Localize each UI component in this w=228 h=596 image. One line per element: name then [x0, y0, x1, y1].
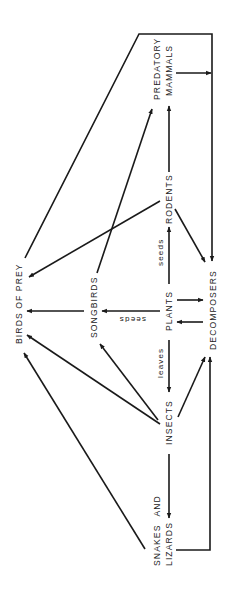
- edge-birds-of-prey-to-decomposers: [25, 34, 212, 261]
- edge-insects-to-birds-of-prey: [27, 335, 160, 424]
- edge-label-leaves: leaves: [156, 348, 165, 378]
- node-predatory-mammals-line2: MAMMALS: [164, 45, 174, 96]
- node-insects: INSECTS: [164, 400, 174, 445]
- food-web-diagram: PREDATORY MAMMALS RODENTS BIRDS OF PREY …: [0, 0, 228, 596]
- edge-insects-to-decomposers: [178, 357, 205, 417]
- node-rodents: RODENTS: [164, 174, 174, 224]
- node-plants: PLANTS: [164, 291, 174, 331]
- edge-songbirds-to-predatory-mammals: [97, 109, 152, 273]
- node-birds-of-prey: BIRDS OF PREY: [14, 263, 24, 344]
- edge-label-seeds-songbirds: seeds: [119, 315, 146, 324]
- edge-insects-to-songbirds: [100, 344, 158, 420]
- edge-label-seeds-rodents: seeds: [156, 239, 165, 266]
- node-songbirds: SONGBIRDS: [89, 277, 99, 338]
- node-predatory-mammals-line1: PREDATORY: [152, 38, 162, 100]
- node-snakes-and-lizards-line1: SNAKES AND: [152, 495, 162, 566]
- edge-snakes-and-lizards-to-birds-of-prey: [24, 353, 145, 549]
- edge-rodents-to-decomposers: [175, 209, 205, 262]
- node-snakes-and-lizards-line2: LIZARDS: [164, 522, 174, 566]
- node-decomposers: DECOMPOSERS: [208, 270, 218, 350]
- edge-snakes-and-lizards-to-decomposers: [176, 357, 210, 550]
